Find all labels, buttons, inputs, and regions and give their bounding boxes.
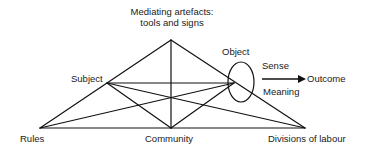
mediating-label-line2: tools and signs xyxy=(118,17,226,28)
object-label: Object xyxy=(222,46,249,57)
subject-label: Subject xyxy=(71,73,103,84)
mediating-artefacts-label: Mediating artefacts: tools and signs xyxy=(118,6,226,28)
rules-label: Rules xyxy=(20,133,44,144)
arrow-head-icon xyxy=(298,75,306,83)
divisions-of-labour-label: Divisions of labour xyxy=(268,133,346,144)
meaning-label: Meaning xyxy=(263,86,299,97)
sense-label: Sense xyxy=(262,60,289,71)
activity-theory-diagram: Mediating artefacts: tools and signs Sub… xyxy=(0,0,370,153)
outcome-label: Outcome xyxy=(307,73,346,84)
object-ellipse xyxy=(228,62,254,102)
community-label: Community xyxy=(145,133,193,144)
mediating-label-line1: Mediating artefacts: xyxy=(118,6,226,17)
